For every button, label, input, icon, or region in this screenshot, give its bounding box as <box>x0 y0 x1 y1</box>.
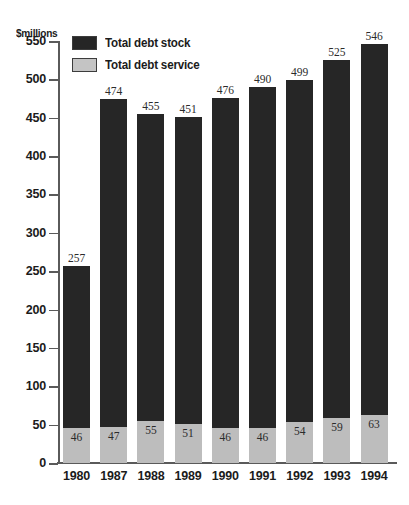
bar-total-debt-stock <box>361 44 388 463</box>
bar-group: 45555 <box>137 114 164 463</box>
bar-value-label-service: 54 <box>294 425 306 437</box>
y-axis-tick-label: 150 <box>26 341 46 355</box>
bar-value-label-service: 55 <box>145 424 157 436</box>
bar-total-debt-stock <box>137 114 164 463</box>
x-axis-tick-label: 1980 <box>63 469 90 483</box>
y-axis-tick-label: 500 <box>26 72 46 86</box>
bar-value-label-service: 46 <box>257 431 269 443</box>
bar-value-label-service: 51 <box>182 427 194 439</box>
bar-group: 25746 <box>63 266 90 463</box>
x-axis-tick-label: 1994 <box>361 469 388 483</box>
y-axis-tick-mark <box>49 79 58 81</box>
bar-value-label-service: 59 <box>331 421 343 433</box>
plot-area: 050100150200250300350400450500550 257464… <box>58 41 398 463</box>
y-axis-tick-mark <box>49 463 58 465</box>
bar-total-debt-stock <box>286 80 313 463</box>
x-axis-tick-label: 1989 <box>175 469 202 483</box>
y-axis-tick-mark <box>49 348 58 350</box>
y-axis-tick-mark <box>49 156 58 158</box>
bar-group: 54663 <box>361 44 388 463</box>
y-axis-tick-label: 250 <box>26 264 46 278</box>
y-axis-tick-mark <box>49 233 58 235</box>
bar-value-label-stock: 546 <box>365 30 382 42</box>
bar-value-label-stock: 451 <box>179 103 196 115</box>
bar-value-label-stock: 490 <box>254 73 271 85</box>
bar-value-label-stock: 499 <box>291 66 308 78</box>
y-axis-tick-label: 300 <box>26 226 46 240</box>
y-axis-tick-mark <box>49 310 58 312</box>
bar-group: 49954 <box>286 80 313 463</box>
y-axis-tick-label: 550 <box>26 34 46 48</box>
bar-total-debt-stock <box>249 87 276 463</box>
y-axis-tick-mark <box>49 425 58 427</box>
bar-value-label-stock: 525 <box>328 46 345 58</box>
y-axis-tick-mark <box>49 41 58 43</box>
bar-series-container: 2574647447455554515147646490464995452559… <box>58 41 398 463</box>
bar-value-label-service: 63 <box>368 418 380 430</box>
bar-group: 52559 <box>323 60 350 463</box>
bar-group: 49046 <box>249 87 276 463</box>
y-axis-tick-label: 200 <box>26 303 46 317</box>
y-axis-tick-label: 350 <box>26 187 46 201</box>
y-axis-tick-label: 0 <box>39 456 46 470</box>
bar-value-label-service: 46 <box>71 431 83 443</box>
y-axis-tick-label: 400 <box>26 149 46 163</box>
bar-value-label-service: 46 <box>220 431 232 443</box>
bar-total-debt-stock <box>100 99 127 463</box>
debt-bar-chart: $millions Total debt stock Total debt se… <box>0 0 409 505</box>
y-axis-tick-mark <box>49 118 58 120</box>
bar-value-label-stock: 476 <box>217 84 234 96</box>
x-axis-tick-label: 1987 <box>100 469 127 483</box>
bar-group: 45151 <box>175 117 202 463</box>
x-axis-tick-label: 1991 <box>249 469 276 483</box>
y-axis-tick-label: 450 <box>26 111 46 125</box>
bar-value-label-service: 47 <box>108 430 120 442</box>
x-axis-tick-label: 1988 <box>137 469 164 483</box>
y-axis-tick-mark <box>49 386 58 388</box>
bar-group: 47447 <box>100 99 127 463</box>
bar-value-label-stock: 257 <box>68 252 85 264</box>
x-axis-tick-label: 1992 <box>286 469 313 483</box>
bar-value-label-stock: 455 <box>142 100 159 112</box>
bar-total-debt-stock <box>212 98 239 463</box>
bar-group: 47646 <box>212 98 239 463</box>
y-axis-tick-mark <box>49 194 58 196</box>
y-axis-tick-mark <box>49 271 58 273</box>
y-axis-tick-label: 100 <box>26 379 46 393</box>
y-axis-tick-label: 50 <box>32 418 46 432</box>
x-axis-tick-label: 1990 <box>212 469 239 483</box>
bar-value-label-stock: 474 <box>105 85 122 97</box>
bar-total-debt-stock <box>323 60 350 463</box>
x-axis-tick-label: 1993 <box>323 469 350 483</box>
bar-total-debt-stock <box>175 117 202 463</box>
